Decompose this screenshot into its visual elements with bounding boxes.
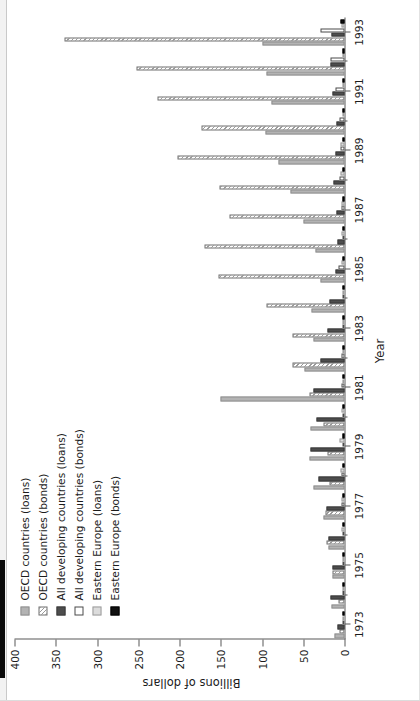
bar — [335, 269, 344, 273]
value-axis-title: Billions of dollars — [142, 675, 240, 689]
bar — [303, 219, 344, 223]
bar — [342, 522, 344, 526]
bar — [310, 426, 344, 430]
bar — [342, 404, 344, 408]
bar — [309, 456, 344, 460]
bar — [336, 210, 344, 214]
category-tick-mark — [344, 268, 350, 269]
bar — [342, 556, 344, 560]
bar — [325, 510, 344, 514]
category-tick-mark — [344, 505, 350, 506]
category-tick-label: 1983 — [352, 308, 364, 348]
bar — [342, 379, 344, 383]
category-tick-mark — [344, 149, 350, 150]
category-tick-label: 1973 — [352, 604, 364, 644]
bar — [332, 570, 344, 574]
bar — [290, 189, 344, 193]
bar — [265, 130, 344, 134]
bar — [327, 328, 344, 332]
bar — [313, 337, 344, 341]
value-tick-mark — [14, 639, 15, 646]
bar — [342, 112, 344, 116]
bar — [136, 66, 344, 70]
bar — [342, 552, 344, 556]
bar — [330, 62, 344, 66]
value-tick-label: 200 — [174, 649, 184, 697]
bar — [341, 408, 344, 412]
value-tick-mark — [344, 639, 345, 646]
bar — [338, 265, 344, 269]
category-tick-label: 1981 — [352, 367, 364, 407]
value-tick-mark — [262, 639, 263, 646]
value-tick-label: 300 — [92, 649, 102, 697]
bar — [318, 476, 344, 480]
category-tick-label: 1985 — [352, 249, 364, 289]
bar — [266, 71, 344, 75]
bar — [204, 244, 344, 248]
bar — [331, 604, 344, 608]
bar — [342, 319, 344, 323]
figure-page: OECD countries (loans)OECD countries (bo… — [0, 0, 420, 701]
bar-chart: OECD countries (loans)OECD countries (bo… — [0, 0, 420, 701]
category-tick-mark — [344, 623, 350, 624]
bar — [328, 536, 345, 540]
bar — [342, 531, 344, 535]
bar — [330, 595, 344, 599]
bar — [327, 451, 344, 455]
bar — [340, 146, 344, 150]
bar — [157, 96, 344, 100]
bar — [330, 57, 344, 61]
bar — [342, 324, 344, 328]
value-tick-label: 400 — [9, 649, 19, 697]
bar — [340, 142, 344, 146]
value-tick-label: 50 — [298, 649, 308, 697]
category-tick-mark — [344, 564, 350, 565]
category-tick-label: 1987 — [352, 190, 364, 230]
bar — [341, 527, 344, 531]
bar — [339, 438, 344, 442]
bar — [342, 561, 344, 565]
bar — [292, 362, 344, 366]
bar — [341, 231, 344, 235]
value-tick-mark — [220, 639, 221, 646]
category-tick-label: 1991 — [352, 71, 364, 111]
bar — [342, 442, 344, 446]
bar — [342, 78, 344, 82]
bar — [342, 374, 344, 378]
value-tick-label: 350 — [50, 649, 60, 697]
bar — [342, 137, 344, 141]
bar — [262, 41, 345, 45]
value-tick-label: 100 — [257, 649, 267, 697]
bar — [335, 87, 344, 91]
bar — [329, 299, 344, 303]
bar — [315, 248, 344, 252]
value-tick-mark — [138, 639, 139, 646]
bar — [328, 545, 344, 549]
bar — [332, 574, 344, 578]
bar — [342, 53, 344, 57]
bar — [342, 611, 344, 615]
category-tick-label: 1993 — [352, 12, 364, 52]
bar — [320, 28, 344, 32]
bar — [342, 590, 344, 594]
bar — [342, 82, 344, 86]
bar — [64, 37, 345, 41]
bar — [340, 19, 344, 23]
bar — [309, 392, 344, 396]
bar — [292, 333, 344, 337]
value-tick-label: 0 — [339, 649, 349, 697]
bar — [342, 108, 344, 112]
category-tick-mark — [344, 386, 350, 387]
bar — [220, 396, 344, 400]
bar — [334, 633, 344, 637]
bar — [271, 100, 344, 104]
bar — [341, 472, 344, 476]
bar — [341, 497, 344, 501]
bar — [340, 171, 344, 175]
bar — [335, 151, 344, 155]
bar — [342, 294, 344, 298]
bar — [342, 616, 344, 620]
bar — [326, 540, 344, 544]
category-tick-mark — [344, 445, 350, 446]
category-tick-label: 1975 — [352, 545, 364, 585]
